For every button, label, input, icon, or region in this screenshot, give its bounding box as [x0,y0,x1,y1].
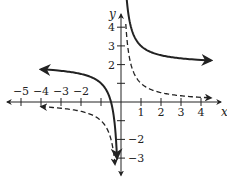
x-tick-label: 3 [178,106,185,119]
curve-dashed-branch [41,107,115,165]
rational-function-chart: −5−4−3−21234432−2−3 x y [0,0,227,186]
curve-solid-branch [125,0,211,60]
y-tick-label: 4 [108,21,115,34]
y-tick-label: 3 [108,40,115,53]
x-tick-label: −4 [33,85,49,98]
x-tick-label: −3 [53,85,69,98]
x-tick-label: 4 [198,106,205,119]
x-tick-label: 1 [138,106,145,119]
y-tick-label: 2 [108,59,115,72]
y-tick-label: −3 [128,152,144,165]
y-tick-label: −2 [128,133,144,146]
curve-solid-branch [41,69,117,158]
x-axis-label: x [221,105,227,119]
curves [41,0,211,164]
x-tick-label: 2 [158,106,165,119]
x-tick-label: −5 [13,85,29,98]
y-axis-label: y [108,7,116,21]
x-tick-label: −2 [73,85,89,98]
curve-dashed-branch [126,24,211,98]
